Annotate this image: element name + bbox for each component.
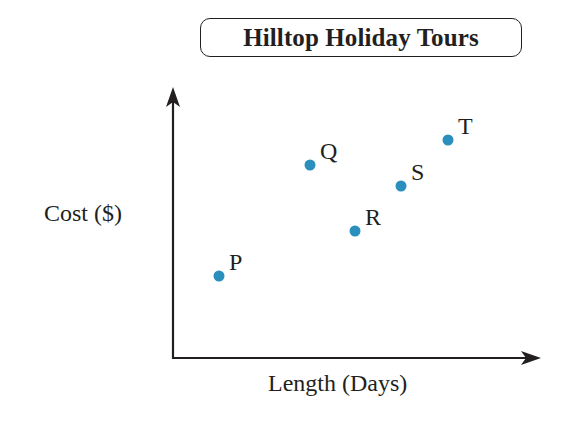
data-point-q: Q — [305, 138, 338, 171]
point-marker-icon — [305, 160, 316, 171]
point-marker-icon — [396, 181, 407, 192]
point-marker-icon — [214, 271, 225, 282]
data-point-p: P — [214, 249, 243, 282]
data-point-s: S — [396, 159, 425, 192]
data-points: PQRST — [214, 113, 474, 282]
point-marker-icon — [443, 135, 454, 146]
point-label: Q — [320, 138, 337, 164]
data-point-t: T — [443, 113, 474, 146]
point-marker-icon — [350, 226, 361, 237]
point-label: R — [365, 204, 381, 230]
point-label: S — [411, 159, 424, 185]
point-label: P — [229, 249, 242, 275]
point-label: T — [458, 113, 473, 139]
scatter-plot: PQRST — [0, 0, 569, 425]
data-point-r: R — [350, 204, 382, 237]
